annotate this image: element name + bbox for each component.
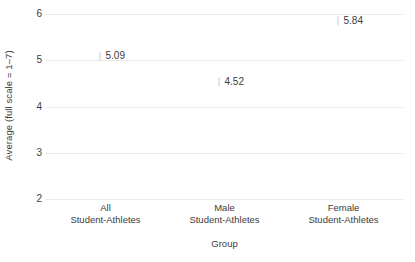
gridline-y-3 [46,153,403,154]
x-tick-label-line2: Student-Athletes [308,214,378,226]
plot-area: 5.094.525.84 [46,14,403,199]
x-tick-label-line1: Female [308,202,378,214]
x-tick-label-line2: Student-Athletes [189,214,259,226]
y-tick-label-3: 3 [16,148,42,158]
chart-container: Average (full scale = 1–7) 23456 5.094.5… [0,0,415,262]
data-point-marker[interactable] [337,17,338,26]
y-tick-label-6: 6 [16,9,42,19]
y-tick-label-4: 4 [16,102,42,112]
x-tick-label-line1: Male [189,202,259,214]
data-point-label: 5.84 [344,16,363,26]
data-point-marker[interactable] [218,78,219,87]
data-point-marker[interactable] [99,52,100,61]
x-tick-label-line1: All [70,202,140,214]
gridline-y-4 [46,107,403,108]
y-tick-label-2: 2 [16,194,42,204]
data-point-label: 5.09 [106,51,125,61]
x-tick-label-2: MaleStudent-Athletes [189,202,259,225]
gridline-y-2 [46,199,403,200]
x-axis-title: Group [46,238,403,249]
x-axis-tick-labels: AllStudent-AthletesMaleStudent-AthletesF… [46,202,403,232]
x-tick-label-line2: Student-Athletes [70,214,140,226]
y-axis-title-text: Average (full scale = 1–7) [3,50,14,160]
y-axis-tick-labels: 23456 [14,14,42,199]
data-point-label: 4.52 [225,77,244,87]
x-tick-label-3: FemaleStudent-Athletes [308,202,378,225]
x-tick-label-1: AllStudent-Athletes [70,202,140,225]
y-tick-label-5: 5 [16,55,42,65]
